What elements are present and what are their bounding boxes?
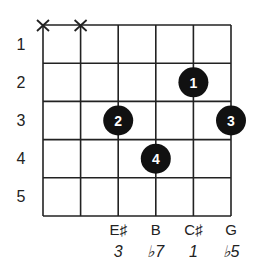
note-label: C♯ xyxy=(178,222,208,238)
degree-label: ♭5 xyxy=(216,244,246,260)
svg-text:1: 1 xyxy=(190,75,198,91)
degree-label: 3 xyxy=(103,244,133,260)
svg-text:4: 4 xyxy=(152,151,160,167)
chord-diagram: 1 2 3 4 1 2 3 4 5 E♯ B C♯ G 3 ♭7 1 ♭5 xyxy=(0,0,264,277)
note-label: B xyxy=(141,222,171,238)
finger-dot-3: 3 xyxy=(216,106,246,136)
fret-number-1: 1 xyxy=(14,37,28,53)
fret-number-4: 4 xyxy=(14,151,28,167)
note-label: E♯ xyxy=(103,222,133,238)
degree-label: 1 xyxy=(178,244,208,260)
finger-dot-4: 4 xyxy=(141,144,171,174)
finger-dot-2: 2 xyxy=(103,106,133,136)
fret-number-5: 5 xyxy=(14,189,28,205)
degree-label: ♭7 xyxy=(141,244,171,260)
note-label: G xyxy=(216,222,246,238)
svg-text:2: 2 xyxy=(114,113,122,129)
finger-dot-1: 1 xyxy=(178,67,208,97)
svg-text:3: 3 xyxy=(227,113,235,129)
fret-number-3: 3 xyxy=(14,113,28,129)
fret-number-2: 2 xyxy=(14,75,28,91)
